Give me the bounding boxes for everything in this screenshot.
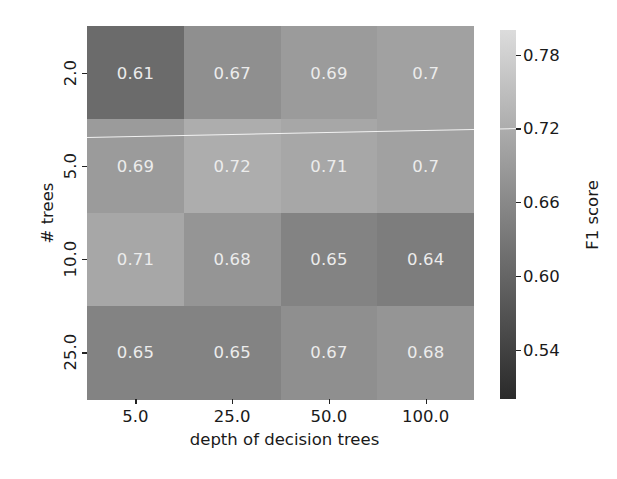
cell-value-label: 0.69: [117, 157, 155, 176]
heatmap-cell: 0.64: [377, 213, 474, 307]
cell-value-label: 0.67: [310, 343, 348, 362]
heatmap-figure: 0.610.670.690.70.690.720.710.70.710.680.…: [0, 0, 617, 479]
cell-value-label: 0.72: [213, 157, 251, 176]
heatmap-cell: 0.69: [87, 119, 184, 213]
heatmap-cell: 0.71: [87, 213, 184, 307]
y-tick: [82, 352, 87, 353]
colorbar-tick-label: 0.54: [523, 340, 560, 359]
colorbar-label: F1 score: [583, 180, 602, 250]
heatmap-cell: 0.65: [184, 306, 281, 400]
cell-value-label: 0.65: [310, 250, 348, 269]
colorbar: [500, 30, 516, 399]
cell-value-label: 0.7: [412, 157, 439, 176]
y-tick-label: 10.0: [61, 241, 80, 278]
cell-value-label: 0.65: [213, 343, 251, 362]
colorbar-tick-label: 0.78: [523, 45, 560, 64]
heatmap-cell: 0.7: [377, 26, 474, 120]
cell-value-label: 0.61: [117, 64, 155, 83]
heatmap-cell: 0.67: [184, 26, 281, 120]
cell-value-label: 0.68: [407, 343, 445, 362]
cell-value-label: 0.65: [117, 343, 155, 362]
y-tick-label: 5.0: [61, 153, 80, 179]
x-axis-label: depth of decision trees: [190, 430, 379, 449]
colorbar-tick-label: 0.72: [523, 119, 560, 138]
cell-value-label: 0.69: [310, 64, 348, 83]
cell-value-label: 0.64: [407, 250, 445, 269]
heatmap-cell: 0.68: [184, 213, 281, 307]
y-tick-label: 2.0: [61, 60, 80, 86]
y-tick: [82, 259, 87, 260]
cell-value-label: 0.67: [213, 64, 251, 83]
heatmap-cell: 0.65: [87, 306, 184, 400]
cell-value-label: 0.71: [310, 157, 348, 176]
colorbar-tick: [516, 128, 521, 129]
y-tick-label: 25.0: [61, 334, 80, 371]
heatmap-cell: 0.61: [87, 26, 184, 120]
heatmap-cell: 0.67: [281, 306, 378, 400]
heatmap-cell: 0.68: [377, 306, 474, 400]
colorbar-tick: [516, 202, 521, 203]
colorbar-tick-label: 0.66: [523, 193, 560, 212]
y-tick: [82, 73, 87, 74]
colorbar-tick: [516, 350, 521, 351]
colorbar-tick: [516, 55, 521, 56]
heatmap-cell: 0.7: [377, 119, 474, 213]
x-tick-label: 100.0: [402, 407, 449, 426]
x-tick: [426, 399, 427, 404]
y-tick: [82, 166, 87, 167]
heatmap-cell: 0.65: [281, 213, 378, 307]
colorbar-tick-label: 0.60: [523, 267, 560, 286]
x-tick: [329, 399, 330, 404]
heatmap-cell: 0.69: [281, 26, 378, 120]
cell-value-label: 0.7: [412, 64, 439, 83]
y-axis-label: # trees: [38, 182, 57, 243]
x-tick-label: 25.0: [214, 407, 251, 426]
x-tick: [232, 399, 233, 404]
x-tick: [135, 399, 136, 404]
cell-value-label: 0.68: [213, 250, 251, 269]
x-tick-label: 5.0: [122, 407, 148, 426]
colorbar-tick: [516, 276, 521, 277]
cell-value-label: 0.71: [117, 250, 155, 269]
x-tick-label: 50.0: [311, 407, 348, 426]
